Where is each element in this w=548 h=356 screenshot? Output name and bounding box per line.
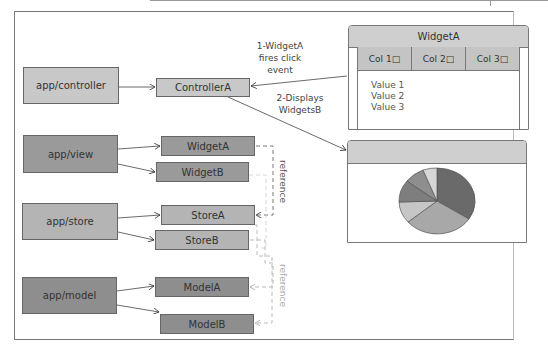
column-header-3: Col 3□ — [466, 47, 519, 70]
chart-panel — [347, 140, 527, 243]
node-widgetb: WidgetB — [156, 162, 249, 182]
value-row: Value 2 — [371, 91, 404, 102]
step2-annotation: 2-Displays WidgetsB — [272, 92, 328, 116]
node-modela: ModelA — [155, 277, 249, 297]
node-label: WidgetA — [187, 141, 229, 152]
reference-label-2: reference — [278, 264, 288, 307]
layer-app-view: app/view — [23, 135, 118, 173]
widgeta-panel-title: WidgetA — [349, 26, 528, 48]
widgeta-panel: WidgetA Col 1□ Col 2□ Col 3□ Value 1 Val… — [348, 25, 529, 130]
layer-label: app/model — [43, 290, 96, 301]
node-label: ControllerA — [175, 82, 231, 93]
layer-label: app/view — [48, 149, 93, 160]
step1-line1: 1-WidgetA — [252, 40, 308, 52]
node-modelb: ModelB — [160, 314, 254, 334]
step1-annotation: 1-WidgetA fires click event — [252, 40, 308, 76]
layer-app-store: app/store — [22, 203, 118, 240]
node-label: ModelA — [184, 282, 221, 293]
layer-label: app/store — [46, 216, 94, 227]
node-label: StoreA — [191, 210, 224, 221]
node-widgeta: WidgetA — [161, 136, 255, 156]
step1-line2: fires click — [252, 52, 308, 64]
reference-label-1: reference — [278, 160, 288, 203]
step2-line1: 2-Displays — [272, 92, 328, 104]
node-label: WidgetB — [181, 167, 223, 178]
grid-right-edge — [519, 71, 520, 129]
layer-app-controller: app/controller — [23, 67, 119, 104]
value-row: Value 1 — [371, 80, 404, 91]
value-row: Value 3 — [371, 102, 404, 113]
widgeta-column-header-row: Col 1□ Col 2□ Col 3□ — [357, 47, 520, 71]
layer-app-model: app/model — [22, 277, 117, 314]
column-header-1: Col 1□ — [358, 47, 412, 70]
widgeta-values: Value 1 Value 2 Value 3 — [371, 80, 404, 113]
node-label: ModelB — [189, 319, 226, 330]
pie-chart — [348, 141, 528, 244]
node-controllera: ControllerA — [156, 78, 250, 97]
grid-left-edge — [357, 71, 358, 129]
column-header-2: Col 2□ — [412, 47, 466, 70]
node-storea: StoreA — [161, 205, 255, 225]
step2-line2: WidgetsB — [272, 104, 328, 116]
step1-line3: event — [252, 64, 308, 76]
node-storeb: StoreB — [155, 230, 249, 250]
node-label: StoreB — [185, 235, 218, 246]
layer-label: app/controller — [36, 80, 106, 91]
